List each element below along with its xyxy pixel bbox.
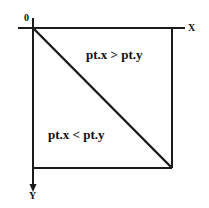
origin-label: 0 bbox=[24, 13, 29, 23]
lower-region-label: pt.x < pt.y bbox=[48, 128, 105, 141]
x-axis-label: X bbox=[188, 23, 195, 33]
upper-region-label: pt.x > pt.y bbox=[86, 48, 143, 61]
y-axis-label: Y bbox=[29, 191, 36, 201]
coordinate-square-diagram bbox=[0, 0, 209, 208]
diagram-canvas: 0 X Y pt.x > pt.y pt.x < pt.y bbox=[0, 0, 209, 208]
